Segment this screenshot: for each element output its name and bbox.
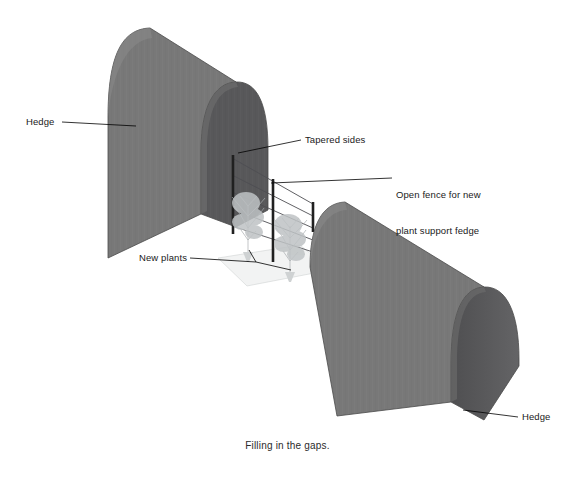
label-open-fence-line2: plant support fedge — [396, 225, 481, 237]
leader-line-open-fence — [271, 178, 392, 183]
label-tapered-sides: Tapered sides — [305, 134, 365, 146]
label-open-fence: Open fence for new plant support fedge — [396, 165, 481, 261]
label-hedge-left: Hedge — [26, 116, 55, 128]
figure-filling-in-the-gaps: Hedge Tapered sides Open fence for new p… — [0, 0, 575, 484]
label-new-plants: New plants — [139, 252, 187, 264]
label-hedge-right: Hedge — [522, 411, 551, 423]
diagram-illustration — [0, 0, 575, 484]
label-open-fence-line1: Open fence for new — [396, 189, 481, 201]
figure-caption: Filling in the gaps. — [0, 440, 575, 451]
